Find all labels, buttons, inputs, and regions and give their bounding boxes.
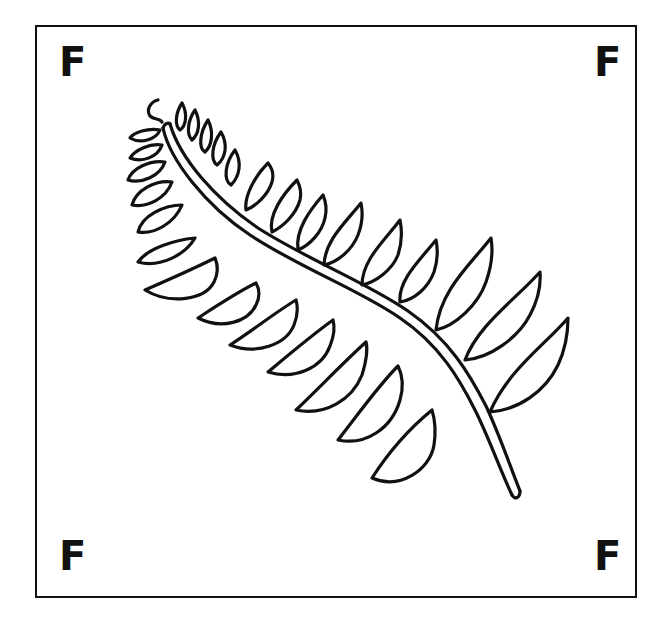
fern-frond-illustration — [0, 0, 666, 625]
